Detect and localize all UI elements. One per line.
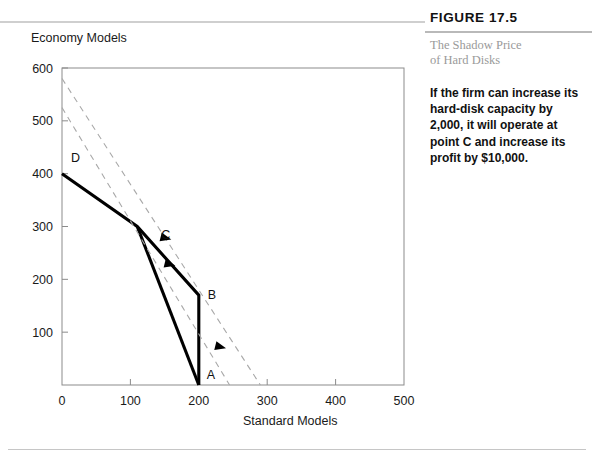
figure-margin-column: FIGURE 17.5 The Shadow Price of Hard Dis… bbox=[425, 0, 592, 470]
point-label-A: A bbox=[207, 368, 216, 382]
series-feasible-frontier-expanded bbox=[137, 227, 199, 386]
figure-subtitle: The Shadow Price of Hard Disks bbox=[430, 38, 590, 68]
series-feasible-frontier-original bbox=[62, 174, 199, 385]
chart-container: Economy Models Standard Models 100200300… bbox=[0, 0, 425, 470]
point-label-C: C bbox=[161, 228, 170, 242]
y-tick-label: 100 bbox=[32, 326, 53, 340]
x-tick-label: 100 bbox=[120, 394, 141, 408]
figure-number-rule bbox=[425, 31, 592, 33]
y-tick-label: 400 bbox=[32, 167, 53, 181]
y-tick-label: 500 bbox=[32, 114, 53, 128]
figure-caption: If the firm can increase its hard-disk c… bbox=[430, 85, 585, 166]
x-tick-label: 200 bbox=[188, 394, 209, 408]
y-tick-label: 300 bbox=[32, 220, 53, 234]
figure-subtitle-line-1: The Shadow Price bbox=[430, 38, 590, 53]
plot-frame bbox=[62, 68, 404, 385]
y-tick-label: 200 bbox=[32, 273, 53, 287]
x-tick-label: 500 bbox=[394, 394, 415, 408]
figure-number: FIGURE 17.5 bbox=[430, 10, 518, 25]
x-tick-label: 400 bbox=[325, 394, 346, 408]
point-label-D: D bbox=[71, 151, 80, 165]
figure-subtitle-line-2: of Hard Disks bbox=[430, 53, 590, 68]
y-tick-label: 600 bbox=[32, 62, 53, 76]
figure-page: FIGURE 17.5 The Shadow Price of Hard Dis… bbox=[0, 0, 592, 470]
x-tick-label: 300 bbox=[257, 394, 278, 408]
plot-svg: 1002003004005006000100200300400500ABCD bbox=[0, 0, 425, 470]
x-tick-label: 0 bbox=[59, 394, 66, 408]
direction-arrow-icon bbox=[214, 341, 227, 352]
point-label-B: B bbox=[208, 288, 216, 302]
